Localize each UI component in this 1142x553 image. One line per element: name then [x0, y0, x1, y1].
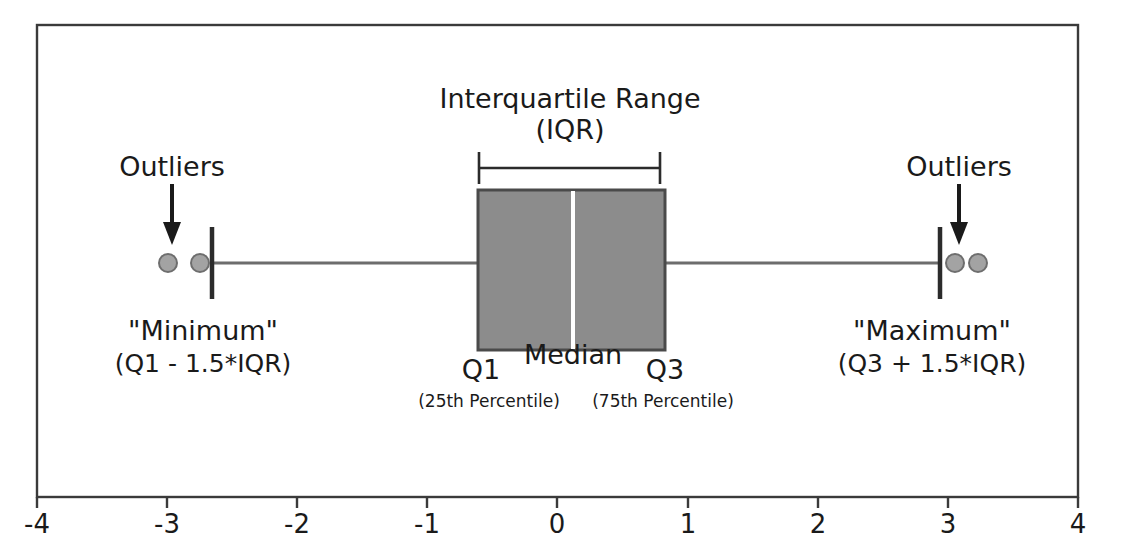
q3-sublabel: (75th Percentile): [592, 392, 734, 411]
x-tick-label: 4: [1070, 510, 1087, 539]
outlier-dot: [969, 254, 987, 272]
boxplot-figure: Outliers Outliers Interquartile Range (I…: [0, 0, 1142, 553]
x-tick-label: -1: [414, 510, 440, 539]
outliers-label-right: Outliers: [906, 152, 1012, 182]
x-tick-label: -2: [284, 510, 310, 539]
maximum-label: "Maximum": [853, 316, 1011, 346]
q1-label: Q1: [462, 355, 500, 385]
minimum-formula: (Q1 - 1.5*IQR): [115, 350, 292, 378]
x-tick-label: -3: [154, 510, 180, 539]
x-tick-label: 1: [680, 510, 697, 539]
outlier-dot: [946, 254, 964, 272]
iqr-title-line1: Interquartile Range: [439, 84, 700, 114]
x-axis-ticks: [37, 497, 1078, 508]
x-tick-label: 2: [810, 510, 827, 539]
outlier-dot: [191, 254, 209, 272]
median-label: Median: [524, 340, 622, 370]
minimum-label: "Minimum": [128, 316, 278, 346]
q3-label: Q3: [646, 355, 684, 385]
outliers-label-left: Outliers: [119, 152, 225, 182]
x-tick-label: 3: [940, 510, 957, 539]
iqr-title-line2: (IQR): [535, 115, 604, 145]
outlier-dot: [159, 254, 177, 272]
x-tick-label: -4: [24, 510, 50, 539]
q1-sublabel: (25th Percentile): [418, 392, 560, 411]
maximum-formula: (Q3 + 1.5*IQR): [838, 350, 1027, 378]
x-tick-label: 0: [549, 510, 566, 539]
